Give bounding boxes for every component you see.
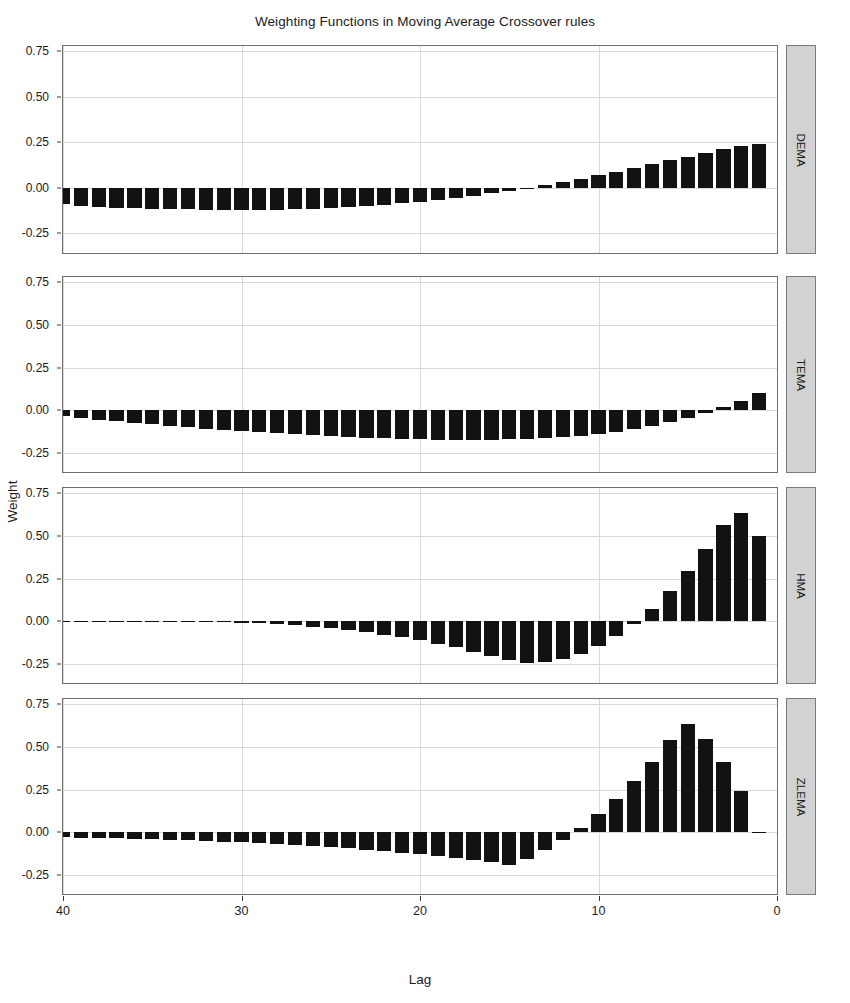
bar bbox=[609, 410, 623, 431]
bar bbox=[520, 188, 534, 189]
bar bbox=[627, 168, 641, 188]
y-axis-tick-mark bbox=[57, 51, 61, 52]
bar bbox=[306, 188, 320, 209]
y-axis-tick-mark bbox=[57, 789, 61, 790]
y-axis-tick-label: 0.00 bbox=[0, 825, 56, 839]
facet-strip-label: TEMA bbox=[795, 359, 807, 391]
bar bbox=[627, 410, 641, 429]
y-axis-tick-mark bbox=[57, 453, 61, 454]
bar bbox=[645, 164, 659, 187]
bar bbox=[359, 621, 373, 632]
bar bbox=[645, 762, 659, 832]
bar bbox=[716, 407, 730, 410]
bar bbox=[395, 621, 409, 637]
panel-zlema: 0.750.500.250.00-0.25ZLEMA403020100 bbox=[0, 698, 850, 955]
bar bbox=[698, 549, 712, 621]
y-axis-tick-mark bbox=[57, 96, 61, 97]
gridline-vertical bbox=[242, 46, 243, 253]
bar bbox=[663, 591, 677, 621]
x-axis-tick-label: 30 bbox=[235, 904, 249, 918]
bar bbox=[145, 621, 159, 622]
bar bbox=[609, 621, 623, 636]
x-axis-label: Lag bbox=[60, 972, 780, 987]
bar bbox=[74, 621, 88, 622]
bar bbox=[377, 832, 391, 851]
bar bbox=[449, 621, 463, 647]
y-axis-tick-mark bbox=[57, 664, 61, 665]
bar bbox=[62, 410, 70, 416]
gridline-vertical bbox=[777, 488, 778, 683]
y-axis-tick-mark bbox=[57, 324, 61, 325]
bar bbox=[359, 832, 373, 849]
y-axis-tick-label: 0.75 bbox=[0, 44, 56, 58]
bar bbox=[591, 814, 605, 832]
bar bbox=[62, 188, 70, 205]
gridline-vertical bbox=[599, 488, 600, 683]
y-axis-tick-mark bbox=[57, 875, 61, 876]
x-axis-tick-label: 20 bbox=[413, 904, 427, 918]
bar bbox=[395, 410, 409, 439]
bar bbox=[109, 410, 123, 421]
bar bbox=[734, 146, 748, 187]
bar bbox=[413, 621, 427, 640]
bar bbox=[698, 739, 712, 833]
y-axis-tick-label: 0.50 bbox=[0, 529, 56, 543]
facet-strip-zlema: ZLEMA bbox=[786, 698, 816, 895]
y-axis-tick-label: 0.75 bbox=[0, 275, 56, 289]
gridline-vertical bbox=[599, 46, 600, 253]
bar bbox=[698, 153, 712, 188]
y-axis-tick-mark bbox=[57, 187, 61, 188]
bar bbox=[341, 621, 355, 630]
x-axis-tick-mark bbox=[599, 896, 600, 901]
bar bbox=[681, 410, 695, 418]
bar bbox=[217, 832, 231, 841]
bar bbox=[574, 621, 588, 654]
bar bbox=[431, 832, 445, 856]
bar bbox=[270, 410, 284, 433]
bar bbox=[127, 621, 141, 622]
bar bbox=[556, 182, 570, 188]
bar bbox=[734, 791, 748, 832]
bar bbox=[466, 410, 480, 439]
bar bbox=[556, 832, 570, 840]
bar bbox=[538, 621, 552, 662]
bar bbox=[163, 832, 177, 840]
y-axis-tick-label: -0.25 bbox=[0, 226, 56, 240]
bar bbox=[234, 621, 248, 622]
bar bbox=[324, 410, 338, 436]
x-axis-tick-mark bbox=[63, 896, 64, 901]
gridline-vertical bbox=[777, 277, 778, 472]
bar bbox=[734, 513, 748, 622]
bar bbox=[252, 621, 266, 623]
bar bbox=[627, 621, 641, 623]
gridline-vertical bbox=[63, 699, 64, 894]
bar bbox=[163, 188, 177, 209]
bar bbox=[92, 188, 106, 207]
bar bbox=[109, 832, 123, 838]
bar bbox=[359, 188, 373, 206]
y-axis-tick-label: 0.50 bbox=[0, 90, 56, 104]
bar bbox=[288, 188, 302, 210]
bar bbox=[62, 832, 70, 837]
facet-strip-hma: HMA bbox=[786, 487, 816, 684]
bar bbox=[181, 188, 195, 210]
y-axis-tick-label: -0.25 bbox=[0, 868, 56, 882]
bar bbox=[234, 188, 248, 210]
bar bbox=[716, 762, 730, 832]
bar bbox=[449, 832, 463, 857]
y-axis-tick-mark bbox=[57, 578, 61, 579]
y-axis-tick-mark bbox=[57, 367, 61, 368]
bar bbox=[74, 188, 88, 206]
bar bbox=[199, 832, 213, 841]
bar bbox=[163, 410, 177, 425]
bar bbox=[288, 410, 302, 434]
y-axis-tick-mark bbox=[57, 832, 61, 833]
y-axis-tick-label: 0.75 bbox=[0, 486, 56, 500]
bar bbox=[466, 832, 480, 860]
panel-tema: 0.750.500.250.00-0.25TEMA bbox=[0, 276, 850, 483]
bar bbox=[341, 188, 355, 207]
bar bbox=[413, 410, 427, 439]
bar bbox=[484, 188, 498, 194]
bar bbox=[609, 172, 623, 188]
y-axis-tick-label: 0.25 bbox=[0, 783, 56, 797]
